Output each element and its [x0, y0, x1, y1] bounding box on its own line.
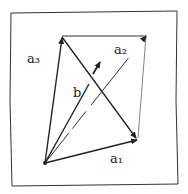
vector-a1 [45, 140, 137, 163]
origin-point [43, 161, 47, 165]
label-a2: a₂ [114, 42, 127, 57]
label-a3: a₃ [27, 51, 40, 66]
vector-b [45, 84, 89, 163]
direction-arrow [93, 62, 100, 74]
frame [10, 11, 178, 186]
vector-diagram: a₃ a₂ b a₁ [0, 0, 188, 194]
label-a1: a₁ [110, 151, 123, 166]
right-edge [138, 36, 146, 138]
label-b: b [73, 85, 81, 100]
